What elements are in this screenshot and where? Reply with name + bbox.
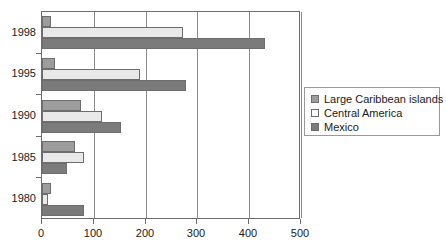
legend: Large Caribbean islandsCentral AmericaMe… (304, 87, 440, 136)
x-axis-tick-300 (196, 219, 197, 224)
x-axis-tick-200 (145, 219, 146, 224)
x-axis-label-500: 500 (280, 227, 320, 240)
bar-1998-central-america (42, 27, 183, 38)
bar-1980-mexico (42, 205, 84, 216)
gridline-500 (301, 12, 302, 218)
bar-1980-large-caribbean-islands (42, 183, 51, 194)
x-axis-tick-0 (41, 219, 42, 224)
bar-1998-mexico (42, 38, 265, 49)
legend-swatch-mexico (311, 123, 319, 131)
legend-label-0: Large Caribbean islands (324, 93, 443, 106)
bar-1995-central-america (42, 69, 140, 80)
bar-chart: 19981995199019851980 0100200300400500 La… (0, 0, 446, 251)
y-axis-label-1985: 1985 (0, 151, 36, 163)
bar-1998-large-caribbean-islands (42, 16, 51, 27)
x-axis-tick-400 (248, 219, 249, 224)
y-axis-label-1998: 1998 (0, 26, 36, 38)
x-axis-label-300: 300 (176, 227, 216, 240)
x-axis-tick-500 (300, 219, 301, 224)
legend-item-central-america: Central America (311, 106, 434, 120)
bar-1985-large-caribbean-islands (42, 141, 75, 152)
x-axis-label-0: 0 (21, 227, 61, 240)
x-axis-tick-100 (93, 219, 94, 224)
bar-1985-mexico (42, 163, 67, 174)
legend-label-1: Central America (324, 107, 402, 120)
y-axis-label-1990: 1990 (0, 109, 36, 121)
y-axis-label-1995: 1995 (0, 67, 36, 79)
bar-1995-mexico (42, 80, 186, 91)
plot-area (41, 11, 300, 219)
bar-1985-central-america (42, 152, 84, 163)
bar-1990-central-america (42, 111, 102, 122)
bar-1995-large-caribbean-islands (42, 58, 55, 69)
x-axis-label-200: 200 (125, 227, 165, 240)
y-axis-label-1980: 1980 (0, 192, 36, 204)
legend-swatch-caribbean (311, 95, 319, 103)
bar-1990-large-caribbean-islands (42, 100, 81, 111)
x-axis-label-100: 100 (73, 227, 113, 240)
bar-1990-mexico (42, 122, 121, 133)
legend-label-2: Mexico (324, 121, 359, 134)
legend-item-large-caribbean-islands: Large Caribbean islands (311, 92, 434, 106)
legend-item-mexico: Mexico (311, 120, 434, 134)
legend-swatch-central-america (311, 109, 319, 117)
x-axis-label-400: 400 (228, 227, 268, 240)
bar-1980-central-america (42, 194, 48, 205)
